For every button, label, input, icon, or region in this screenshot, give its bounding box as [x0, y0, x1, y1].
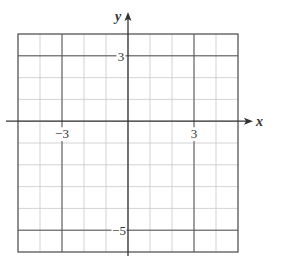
x-axis-label: x: [255, 114, 263, 129]
coordinate-grid: −3 3 3 −5 x y: [0, 0, 282, 262]
y-axis-label: y: [113, 9, 122, 24]
x-tick-label-neg3: −3: [55, 126, 69, 141]
y-tick-label-3: 3: [118, 49, 125, 64]
y-tick-label-neg5: −5: [112, 223, 126, 238]
x-tick-label-3: 3: [191, 126, 198, 141]
